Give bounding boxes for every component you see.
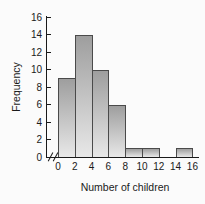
y-tick-label: 12 <box>18 47 42 58</box>
histogram-chart: Frequency 0246810121416 0246810121416 Nu… <box>0 0 205 204</box>
y-tick-label: 14 <box>18 29 42 40</box>
y-axis-tick <box>47 69 51 70</box>
y-tick-label: 4 <box>18 117 42 128</box>
y-axis-tick <box>47 139 51 140</box>
histogram-bar <box>108 105 126 158</box>
y-tick-label: 8 <box>18 82 42 93</box>
y-axis-tick <box>47 17 51 18</box>
y-axis-tick <box>47 87 51 88</box>
histogram-bar <box>92 70 110 158</box>
histogram-bar <box>75 35 93 158</box>
y-axis-tick <box>47 34 51 35</box>
y-axis-tick <box>47 157 51 158</box>
histogram-bar <box>142 148 160 157</box>
y-tick-label: 16 <box>18 12 42 23</box>
y-tick-label: 10 <box>18 64 42 75</box>
y-tick-label: 6 <box>18 99 42 110</box>
histogram-bar <box>176 148 194 157</box>
x-axis-title: Number of children <box>46 181 204 194</box>
histogram-bar <box>58 78 76 157</box>
histogram-bar <box>125 148 143 157</box>
y-axis-tick <box>47 52 51 53</box>
y-axis-tick <box>47 104 51 105</box>
x-axis-line <box>46 157 199 158</box>
y-axis-tick <box>47 122 51 123</box>
x-tick-label: 16 <box>181 161 203 172</box>
y-tick-label: 0 <box>18 152 42 163</box>
y-tick-label: 2 <box>18 134 42 145</box>
